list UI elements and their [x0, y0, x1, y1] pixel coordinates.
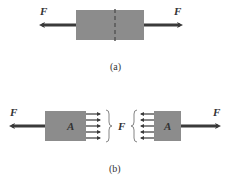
right-force-label: F [173, 5, 182, 17]
left-force-label: F [9, 106, 18, 118]
right-block-label: A [163, 120, 171, 132]
bar [76, 10, 144, 40]
right-brace-icon [106, 110, 112, 142]
right-force-label: F [212, 106, 221, 118]
caption-b: (b) [109, 163, 121, 175]
left-brace-icon [131, 110, 137, 142]
figure-a: F F (a) [39, 5, 182, 73]
caption-a: (a) [110, 61, 121, 73]
left-distributed-arrows [86, 114, 100, 138]
right-distributed-arrows [141, 114, 154, 138]
axial-load-diagram: F F (a) A F F A F (b) [0, 0, 230, 182]
internal-force-label: F [117, 120, 126, 132]
left-block [45, 111, 86, 141]
figure-b: A F F A F (b) [9, 106, 221, 175]
left-force-label: F [39, 5, 48, 17]
left-block-label: A [66, 120, 74, 132]
